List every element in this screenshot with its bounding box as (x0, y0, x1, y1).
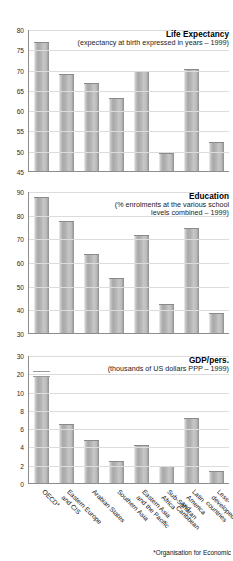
bar (134, 71, 149, 171)
gridline (29, 152, 229, 153)
figure-page: Life Expectancy (expectancy at birth exp… (0, 0, 233, 561)
bar (84, 254, 99, 333)
y-axis-tick-label: 75 (0, 47, 24, 54)
gridline (29, 50, 229, 51)
y-axis-tick-label: 60 (0, 108, 24, 115)
gridline (29, 30, 229, 31)
y-axis-tick-label: 70 (0, 67, 24, 74)
bar (84, 440, 99, 483)
y-axis-tick-label: 45 (0, 169, 24, 176)
bar (209, 142, 224, 171)
gridline (29, 374, 229, 375)
y-axis-tick-label: 10 (0, 389, 24, 396)
gridline (29, 310, 229, 311)
y-axis-tick-label: 20 (0, 371, 24, 378)
y-axis-tick-label: 30 (0, 353, 24, 360)
gridline (29, 111, 229, 112)
y-axis-tick-label: 30 (0, 331, 24, 338)
bar (184, 418, 199, 483)
bar (184, 69, 199, 171)
y-axis-tick-label: 55 (0, 128, 24, 135)
bar (209, 313, 224, 333)
bar (134, 445, 149, 483)
gridline (29, 216, 229, 217)
gridline (29, 447, 229, 448)
bar (109, 461, 124, 483)
y-axis-tick-label: 65 (0, 87, 24, 94)
gridline (29, 263, 229, 264)
y-axis-tick-label: 80 (0, 212, 24, 219)
gridline (29, 91, 229, 92)
footnote: *Organisation for Economic (153, 549, 231, 557)
x-axis-category-labels: OECD*Eastern Europe and CISArabian State… (28, 486, 229, 556)
bar (34, 197, 49, 333)
y-axis-tick-label: 4 (0, 444, 24, 451)
y-axis-tick-label: 50 (0, 148, 24, 155)
y-axis-tick-label: 2 (0, 462, 24, 469)
bar (59, 221, 74, 333)
plot-canvas (28, 30, 229, 172)
gridline (29, 429, 229, 430)
gridline (29, 466, 229, 467)
y-axis-tick-label: 70 (0, 236, 24, 243)
bar (59, 424, 74, 483)
bar (184, 228, 199, 333)
gridline (29, 287, 229, 288)
gridline (29, 239, 229, 240)
plot-canvas (28, 356, 229, 484)
bar (134, 235, 149, 333)
bar (159, 153, 174, 171)
bar (209, 471, 224, 483)
plot-area: 30405060708090 (0, 192, 233, 334)
y-axis-tick-label: 0 (0, 481, 24, 488)
gridline (29, 71, 229, 72)
y-axis-tick-label: 8 (0, 407, 24, 414)
plot-area: 02468102030 (0, 356, 233, 484)
gridline (29, 411, 229, 412)
bar (109, 98, 124, 171)
y-axis-tick-label: 40 (0, 307, 24, 314)
bar (59, 74, 74, 171)
y-axis-tick-label: 50 (0, 283, 24, 290)
gridline (29, 356, 229, 357)
bar (84, 83, 99, 171)
y-axis-tick-label: 6 (0, 426, 24, 433)
gridline (29, 131, 229, 132)
bar (159, 304, 174, 333)
bar (159, 466, 174, 483)
y-axis-tick-label: 90 (0, 189, 24, 196)
gridline (29, 393, 229, 394)
plot-area: 4550556065707580 (0, 30, 233, 172)
plot-canvas (28, 192, 229, 334)
y-axis-tick-label: 80 (0, 27, 24, 34)
y-axis-tick-label: 60 (0, 260, 24, 267)
x-axis-category-label: OECD* (40, 488, 61, 509)
gridline (29, 192, 229, 193)
